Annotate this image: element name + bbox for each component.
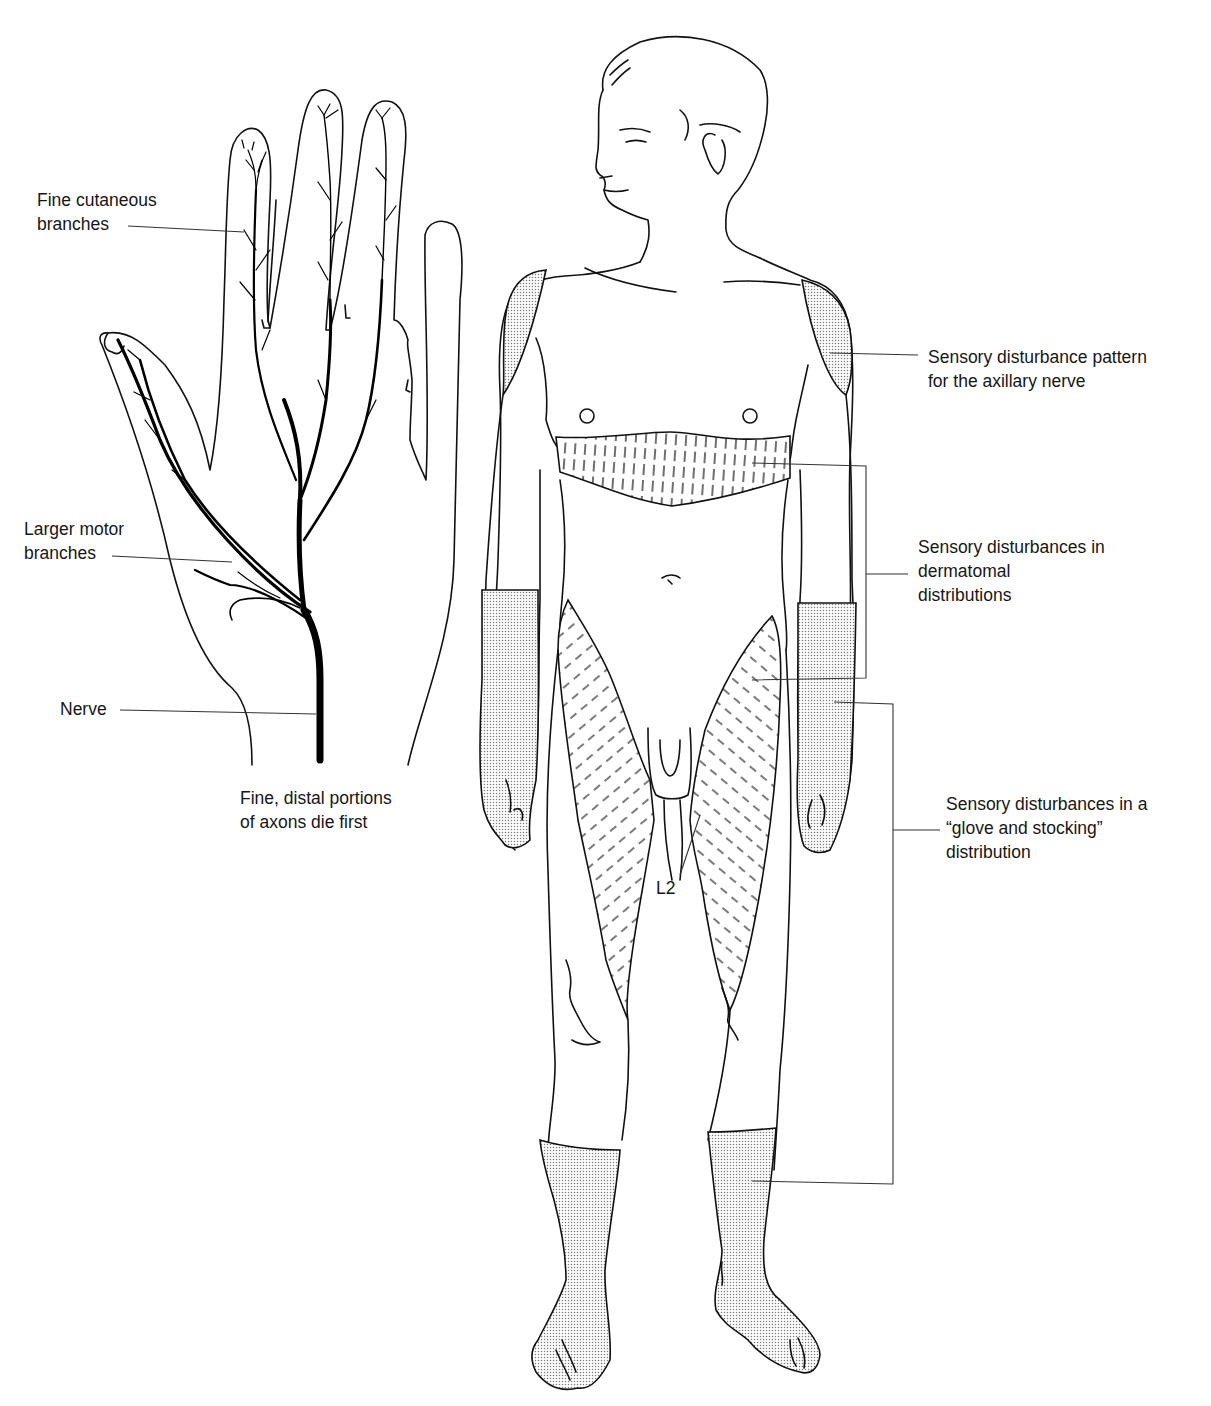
glove-right — [797, 603, 856, 853]
dermatome-l2-right — [690, 616, 781, 1010]
navel — [662, 575, 680, 584]
label-l2-dermatome: L2 — [656, 876, 675, 900]
label-larger-motor-branches: Larger motor branches — [24, 517, 124, 565]
dermatomal-band-chest — [556, 432, 790, 506]
body-illustration — [480, 37, 940, 1390]
axillary-patch-left — [503, 270, 546, 395]
genital-outline — [648, 728, 691, 799]
label-dermatomal-distributions: Sensory disturbances in dermatomal distr… — [918, 535, 1105, 607]
nipple-left — [580, 409, 594, 423]
caption-axon-death: Fine, distal portions of axons die first — [240, 786, 392, 834]
nipple-right — [743, 409, 757, 423]
leader-larger-motor — [112, 556, 232, 562]
glove-left — [480, 590, 539, 848]
label-nerve: Nerve — [60, 697, 107, 721]
stocking-left — [532, 1140, 620, 1389]
stocking-right — [708, 1128, 820, 1373]
nerve-trunk — [304, 610, 320, 760]
axillary-patch-right — [802, 280, 852, 395]
illustration-canvas — [0, 0, 1211, 1406]
leader-nerve — [120, 710, 316, 714]
label-glove-and-stocking: Sensory disturbances in a “glove and sto… — [946, 792, 1147, 864]
dermatome-l2-left — [558, 600, 654, 1020]
label-axillary-nerve-pattern: Sensory disturbance pattern for the axil… — [928, 345, 1147, 393]
label-fine-cutaneous-branches: Fine cutaneous branches — [37, 188, 157, 236]
